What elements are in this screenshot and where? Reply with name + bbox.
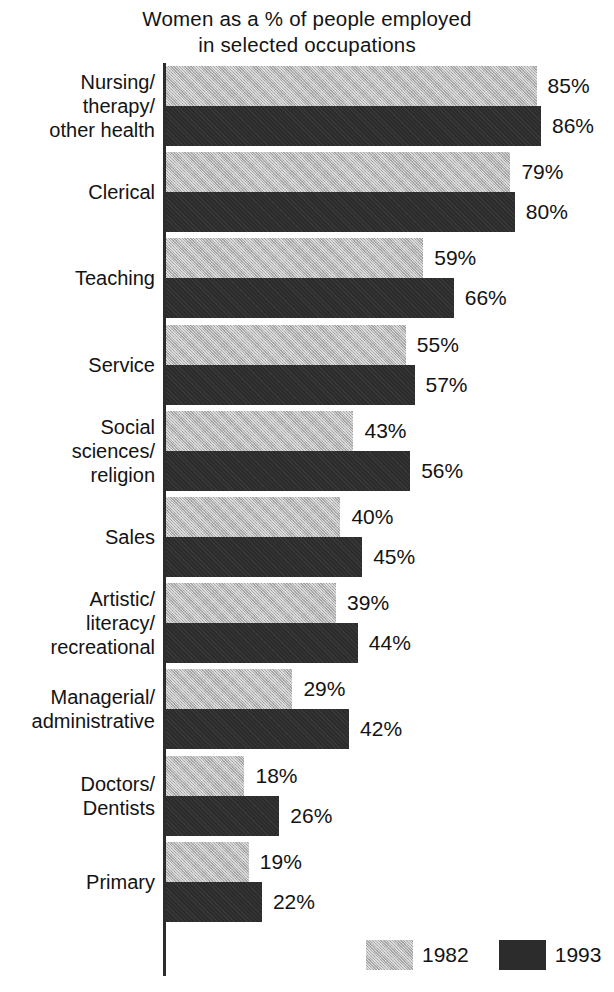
bar-group: Doctors/ Dentists18%26% [0, 756, 614, 836]
bar-value-label: 22% [273, 891, 315, 913]
bar-1982 [166, 497, 340, 537]
bar-1993 [166, 709, 349, 749]
bar-group: Service55%57% [0, 325, 614, 405]
bar-value-label: 19% [260, 851, 302, 873]
bar-1982 [166, 842, 249, 882]
bar-1982 [166, 669, 292, 709]
bar-row: 57% [166, 365, 614, 405]
bar-value-label: 55% [417, 334, 459, 356]
bar-1993 [166, 365, 415, 405]
bar-1982 [166, 238, 423, 278]
legend-label-1993: 1993 [555, 944, 602, 966]
bar-row: 40% [166, 497, 614, 537]
bar-group: Sales40%45% [0, 497, 614, 577]
legend-swatch-1993-icon [499, 940, 546, 970]
bar-1982 [166, 325, 406, 365]
chart-legend: 1982 1993 [366, 938, 601, 972]
bar-row: 44% [166, 623, 614, 663]
bar-value-label: 86% [552, 115, 594, 137]
bar-row: 80% [166, 192, 614, 232]
bar-group: Artistic/ literacy/ recreational39%44% [0, 583, 614, 663]
bar-value-label: 26% [290, 805, 332, 827]
bar-value-label: 44% [369, 632, 411, 654]
bar-value-label: 18% [255, 765, 297, 787]
bar-row: 86% [166, 106, 614, 146]
bar-group: Nursing/ therapy/ other health85%86% [0, 66, 614, 146]
bar-value-label: 79% [521, 161, 563, 183]
bar-group: Primary19%22% [0, 842, 614, 922]
legend-item-1993: 1993 [499, 940, 602, 970]
bar-value-label: 29% [303, 678, 345, 700]
bar-value-label: 66% [465, 287, 507, 309]
bar-row: 39% [166, 583, 614, 623]
plot-area: Nursing/ therapy/ other health85%86%Cler… [0, 0, 614, 992]
bar-row: 19% [166, 842, 614, 882]
legend-label-1982: 1982 [422, 944, 469, 966]
bar-group: Managerial/ administrative29%42% [0, 669, 614, 749]
bar-value-label: 42% [360, 718, 402, 740]
bar-1993 [166, 882, 262, 922]
bar-value-label: 56% [421, 460, 463, 482]
category-label: Clerical [0, 180, 155, 204]
bar-row: 29% [166, 669, 614, 709]
bar-row: 56% [166, 451, 614, 491]
bar-value-label: 40% [351, 506, 393, 528]
category-label: Teaching [0, 266, 155, 290]
bar-row: 55% [166, 325, 614, 365]
bar-row: 59% [166, 238, 614, 278]
bar-value-label: 45% [373, 546, 415, 568]
legend-item-1982: 1982 [366, 940, 469, 970]
bar-value-label: 39% [347, 592, 389, 614]
bar-1993 [166, 623, 358, 663]
bar-row: 18% [166, 756, 614, 796]
bar-row: 42% [166, 709, 614, 749]
bar-value-label: 80% [526, 201, 568, 223]
bar-row: 79% [166, 152, 614, 192]
bar-row: 43% [166, 411, 614, 451]
bar-1982 [166, 66, 537, 106]
bar-1982 [166, 152, 510, 192]
bar-1993 [166, 451, 410, 491]
category-label: Primary [0, 870, 155, 894]
category-label: Managerial/ administrative [0, 685, 155, 733]
bar-group: Clerical79%80% [0, 152, 614, 232]
bar-1993 [166, 106, 541, 146]
category-label: Social sciences/ religion [0, 415, 155, 487]
bar-1993 [166, 537, 362, 577]
legend-swatch-1982-icon [366, 940, 413, 970]
bar-row: 26% [166, 796, 614, 836]
bar-row: 22% [166, 882, 614, 922]
category-label: Nursing/ therapy/ other health [0, 70, 155, 142]
bar-group: Teaching59%66% [0, 238, 614, 318]
bar-value-label: 43% [364, 420, 406, 442]
bar-1982 [166, 756, 244, 796]
bar-1982 [166, 411, 353, 451]
bar-1993 [166, 192, 515, 232]
category-label: Doctors/ Dentists [0, 772, 155, 820]
bar-value-label: 57% [426, 374, 468, 396]
bar-row: 45% [166, 537, 614, 577]
occupations-bar-chart: Women as a % of people employed in selec… [0, 0, 614, 992]
bar-1982 [166, 583, 336, 623]
bar-value-label: 85% [548, 75, 590, 97]
bar-row: 66% [166, 278, 614, 318]
bar-row: 85% [166, 66, 614, 106]
bar-value-label: 59% [434, 247, 476, 269]
bar-1993 [166, 278, 454, 318]
bar-1993 [166, 796, 279, 836]
category-label: Sales [0, 525, 155, 549]
category-label: Service [0, 353, 155, 377]
category-label: Artistic/ literacy/ recreational [0, 587, 155, 659]
bar-group: Social sciences/ religion43%56% [0, 411, 614, 491]
